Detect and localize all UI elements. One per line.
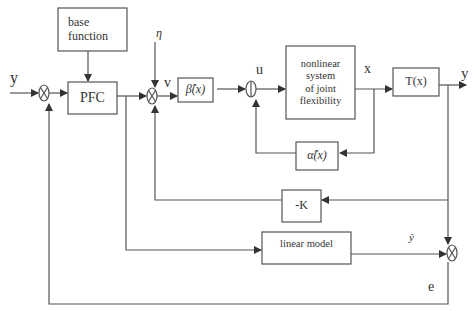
- alpha-label: α̂(x): [296, 142, 338, 170]
- base-function-line1: base: [68, 16, 89, 30]
- sum-junction-error: [447, 245, 457, 261]
- signal-input-y: y: [10, 70, 18, 86]
- signal-y-hat: ŷ: [409, 232, 414, 243]
- signal-u: u: [256, 63, 263, 77]
- nonlinear-line1: nonlinear: [301, 58, 341, 70]
- alpha-text: α̂(x): [307, 149, 327, 163]
- signal-v: v: [164, 76, 171, 90]
- beta-text: β̂(x): [186, 83, 205, 97]
- nonlinear-system-label: nonlinear system of joint flexibility: [286, 46, 355, 119]
- signal-e: e: [428, 280, 434, 294]
- transform-label: T(x): [393, 68, 439, 96]
- sum-junction-u: [246, 81, 256, 97]
- signal-output-y: y: [461, 66, 469, 81]
- sum-junction-2: [147, 88, 157, 104]
- base-function-label: base function: [58, 8, 127, 51]
- transform-text: T(x): [405, 75, 426, 89]
- base-function-line2: function: [68, 30, 108, 44]
- pfc-text: PFC: [80, 90, 105, 106]
- error-feedback-line: [49, 104, 448, 304]
- pfc-label: PFC: [68, 82, 117, 114]
- sum-junction-1: [39, 85, 49, 101]
- nonlinear-line2: system: [306, 70, 335, 82]
- beta-label: β̂(x): [178, 78, 213, 102]
- linear-model-text: linear model: [280, 238, 333, 250]
- nonlinear-line4: flexibility: [300, 95, 341, 107]
- pfc-to-linear-model-line: [126, 96, 261, 250]
- signal-eta: η: [156, 27, 162, 39]
- signal-x: x: [364, 62, 371, 76]
- nonlinear-line3: of joint: [305, 83, 336, 95]
- linear-model-label: linear model: [262, 232, 351, 256]
- gain-label: -K: [282, 190, 321, 222]
- gain-text: -K: [295, 199, 308, 213]
